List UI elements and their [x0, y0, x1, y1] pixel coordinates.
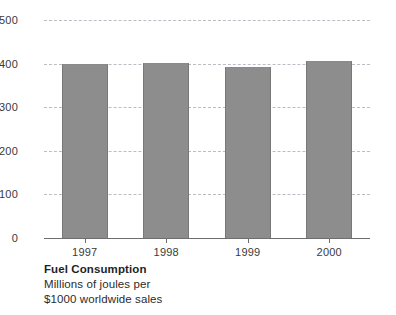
- x-tick-mark: [329, 238, 330, 243]
- bar-slot: [44, 20, 126, 238]
- y-tick-label: 0: [0, 233, 18, 244]
- chart-figure: 0100200300400500 1997199819992000 Fuel C…: [0, 0, 396, 315]
- bar-slot: [207, 20, 289, 238]
- caption-line-1: Millions of joules per: [44, 277, 324, 292]
- x-tick-label: 1999: [207, 246, 289, 258]
- x-axis-layer: 1997199819992000: [44, 238, 370, 264]
- chart-caption: Fuel Consumption Millions of joules per …: [44, 262, 324, 307]
- x-tick-label: 2000: [289, 246, 371, 258]
- plot-area: 0100200300400500: [44, 20, 370, 238]
- caption-title: Fuel Consumption: [44, 262, 324, 277]
- x-tick-label: 1997: [44, 246, 126, 258]
- bar-slot: [126, 20, 208, 238]
- x-tick-mark: [85, 238, 86, 243]
- bar[interactable]: [306, 61, 352, 238]
- x-tick-label: 1998: [126, 246, 208, 258]
- y-tick-label: 200: [0, 146, 18, 157]
- y-tick-label: 400: [0, 59, 18, 70]
- y-tick-label: 500: [0, 15, 18, 26]
- bar-slot: [289, 20, 371, 238]
- x-tick-mark: [248, 238, 249, 243]
- y-tick-label: 300: [0, 102, 18, 113]
- caption-line-2: $1000 worldwide sales: [44, 292, 324, 307]
- y-tick-label: 100: [0, 189, 18, 200]
- x-tick-mark: [166, 238, 167, 243]
- bar[interactable]: [62, 64, 108, 238]
- bar[interactable]: [225, 67, 271, 238]
- bar[interactable]: [143, 63, 189, 238]
- bars-layer: [44, 20, 370, 238]
